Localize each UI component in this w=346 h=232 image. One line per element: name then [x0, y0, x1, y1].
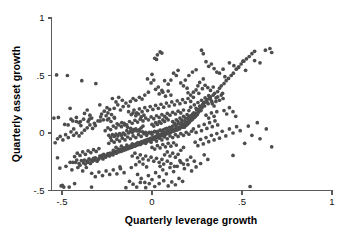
data-point	[166, 142, 170, 146]
data-point	[200, 48, 204, 52]
data-point	[187, 74, 191, 78]
data-point	[66, 123, 70, 127]
data-point	[219, 93, 223, 97]
data-point	[154, 104, 158, 108]
data-point	[121, 105, 125, 109]
data-point	[189, 155, 193, 159]
data-point	[138, 181, 142, 185]
data-point	[82, 117, 86, 121]
data-point	[246, 124, 250, 128]
data-point	[210, 125, 214, 129]
data-point	[241, 59, 245, 63]
data-point	[66, 74, 70, 78]
data-point	[210, 133, 214, 137]
data-point	[200, 129, 204, 133]
data-point	[190, 169, 194, 173]
data-point	[101, 174, 105, 178]
data-point	[140, 110, 144, 114]
data-point	[138, 96, 142, 100]
data-point	[155, 139, 159, 143]
data-point	[134, 136, 138, 140]
data-point	[144, 154, 148, 158]
data-point	[145, 133, 149, 137]
data-point	[216, 90, 220, 94]
data-point	[194, 68, 198, 72]
data-point	[206, 86, 210, 90]
data-point	[155, 156, 159, 160]
x-tick-label: .5	[238, 196, 246, 207]
data-point	[232, 64, 236, 68]
data-point	[149, 155, 153, 159]
data-point	[162, 179, 166, 183]
data-point	[182, 108, 186, 112]
y-tick-label: .5	[37, 70, 45, 81]
data-point	[166, 82, 170, 86]
data-point	[185, 123, 189, 127]
data-point	[182, 84, 186, 88]
data-point	[202, 153, 206, 157]
data-point	[134, 163, 138, 167]
data-point	[90, 185, 94, 189]
data-point	[79, 124, 83, 128]
data-point	[146, 77, 150, 81]
data-point	[179, 111, 183, 115]
data-point	[210, 111, 214, 115]
data-point	[220, 129, 224, 133]
data-point	[73, 182, 77, 186]
data-point	[108, 173, 112, 177]
data-point	[205, 127, 209, 131]
data-point	[201, 77, 205, 81]
data-point	[143, 93, 147, 97]
data-point	[182, 133, 186, 137]
data-point	[208, 121, 212, 125]
data-point	[176, 135, 180, 139]
data-point	[179, 148, 183, 152]
data-point	[167, 104, 171, 108]
data-point	[147, 174, 151, 178]
data-point	[192, 159, 196, 163]
data-point	[75, 116, 79, 120]
data-point	[154, 171, 158, 175]
data-point	[166, 184, 170, 188]
data-point	[213, 119, 217, 123]
data-point	[207, 94, 211, 98]
data-point	[86, 149, 90, 153]
data-point	[201, 102, 205, 106]
data-point	[193, 140, 197, 144]
data-point	[157, 175, 161, 179]
data-point	[129, 100, 133, 104]
data-point	[173, 103, 177, 107]
data-point	[147, 158, 151, 162]
data-point	[81, 150, 85, 154]
data-point	[147, 118, 151, 122]
data-point	[138, 153, 142, 157]
data-point	[83, 112, 87, 116]
data-point	[111, 148, 115, 152]
data-point	[232, 71, 236, 75]
data-point	[237, 66, 241, 70]
data-point	[194, 165, 198, 169]
data-point	[174, 112, 178, 116]
data-point	[109, 128, 113, 132]
data-point	[187, 132, 191, 136]
data-point	[129, 166, 133, 170]
data-point	[112, 140, 116, 144]
y-axis-title: Quarterly asset growth	[10, 46, 22, 163]
data-point	[164, 145, 168, 149]
scatter-plot-figure: -.50.51 -.50.51 Quarterly leverage growt…	[0, 0, 346, 232]
data-point	[58, 166, 62, 170]
data-point	[152, 78, 156, 82]
data-point	[197, 124, 201, 128]
data-point	[204, 113, 208, 117]
data-point	[115, 172, 119, 176]
data-point	[150, 132, 154, 136]
data-point	[67, 185, 71, 189]
data-point	[127, 110, 131, 114]
data-point	[88, 123, 92, 127]
data-point	[270, 145, 274, 149]
data-point	[117, 147, 121, 151]
data-point	[118, 139, 122, 143]
data-point	[94, 82, 98, 86]
data-point	[104, 169, 108, 173]
data-point	[56, 137, 60, 141]
